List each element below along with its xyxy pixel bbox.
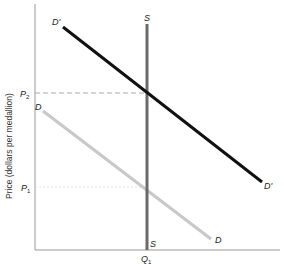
label-s-bottom: S [150,239,156,249]
demand-curve-d-prime [63,27,262,182]
label-d-prime-top: D' [52,17,60,27]
label-d-bottom: D [215,235,222,245]
label-p2: P2 [20,89,30,100]
label-d-prime-bottom: D' [264,181,272,191]
demand-curve-d [43,111,211,239]
supply-demand-chart: D' S D D' D S P2 P1 Q1 Price (dollars pe… [0,0,284,274]
label-s-top: S [144,13,150,23]
label-q1: Q1 [141,254,152,265]
y-axis-label: Price (dollars per medallion) [4,93,14,199]
label-p1: P1 [21,183,31,194]
label-d-top: D [35,102,42,112]
